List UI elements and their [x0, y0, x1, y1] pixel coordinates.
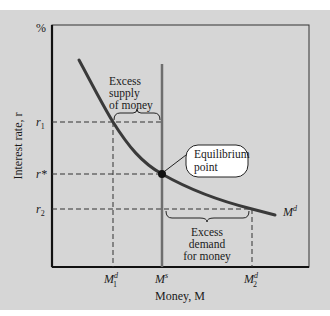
demand-curve-label: Md: [282, 204, 298, 219]
tick-r1: r1: [36, 115, 45, 131]
tick-Ms: Ms: [154, 271, 168, 286]
tick-M1d: Md1: [103, 271, 119, 289]
equilibrium-label-line2: point: [194, 161, 218, 174]
excess-supply-line1: Excess: [109, 75, 141, 87]
equilibrium-dot: [158, 170, 166, 178]
money-market-diagram: Equilibrium point Excess supply of money…: [0, 0, 330, 316]
excess-demand-line3: for money: [183, 250, 231, 263]
excess-demand-line1: Excess: [191, 226, 223, 238]
tick-r-star: r*: [36, 167, 47, 181]
plot-frame: [52, 25, 309, 267]
excess-demand-line2: demand: [189, 238, 226, 250]
excess-demand-brace: [166, 211, 249, 222]
tick-M2d: Md2: [243, 271, 259, 289]
equilibrium-label-line1: Equilibrium: [194, 148, 250, 161]
equilibrium-leader-line: [165, 155, 186, 171]
excess-supply-line3: of money: [109, 99, 153, 112]
x-axis-label: Money, M: [155, 289, 205, 303]
tick-r2: r2: [36, 202, 45, 218]
y-axis-unit: %: [36, 21, 46, 35]
y-axis-label: Interest rate, r: [11, 113, 25, 180]
